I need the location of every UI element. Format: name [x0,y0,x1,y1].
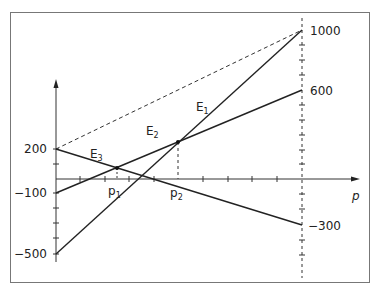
label-e2: E2 [146,124,159,140]
label-e3: E3 [90,147,103,163]
label-right-1000: 1000 [310,24,341,38]
diagram-canvas: 200 −100 −500 1000 600 −300 p E1 E2 E3 p… [0,0,378,291]
label-left-minus500: −500 [14,247,47,261]
label-p2: p2 [170,186,183,202]
label-right-minus300: −300 [308,219,341,233]
point-e2 [176,140,180,144]
label-left-minus100: −100 [14,186,47,200]
label-x-axis-p: p [351,189,360,203]
frame-border [11,13,370,283]
label-left-200: 200 [24,142,47,156]
axis-arrow-up-icon [54,79,59,88]
axis-arrow-right-icon [351,177,360,182]
label-p1: p1 [108,184,121,200]
label-e1: E1 [196,100,209,116]
point-e3 [115,166,119,170]
dashed-line-200-1000 [56,30,302,149]
label-right-600: 600 [310,84,333,98]
